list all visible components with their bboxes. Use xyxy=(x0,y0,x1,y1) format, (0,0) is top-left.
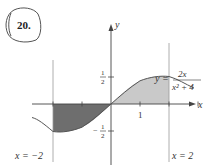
svg-text:x² + 4: x² + 4 xyxy=(171,82,194,92)
x-axis-arrow-icon xyxy=(189,102,196,107)
tick-label-x-1: 1 xyxy=(138,110,143,120)
bound-label-right: x = 2 xyxy=(171,150,193,161)
tick-label-y-neg-half: − 1 2 xyxy=(93,123,106,140)
svg-text:2x: 2x xyxy=(178,69,187,79)
problem-number: 20. xyxy=(17,19,31,31)
svg-text:1: 1 xyxy=(101,123,105,131)
bound-label-left: x = −2 xyxy=(14,150,43,161)
area-between-curve-figure: 20. y x 1 1 2 − 1 2 y = 2x x² + 4 xyxy=(0,0,208,165)
svg-text:2: 2 xyxy=(101,78,105,86)
svg-text:2: 2 xyxy=(101,132,105,140)
tick-label-y-half: 1 2 xyxy=(100,69,106,86)
x-axis-label: x xyxy=(197,99,203,110)
y-axis-label: y xyxy=(114,19,120,30)
svg-text:y =: y = xyxy=(154,73,169,84)
y-axis-arrow-icon xyxy=(109,24,114,31)
svg-text:−: − xyxy=(93,126,98,135)
problem-number-badge: 20. xyxy=(6,8,41,42)
svg-text:1: 1 xyxy=(101,69,105,77)
